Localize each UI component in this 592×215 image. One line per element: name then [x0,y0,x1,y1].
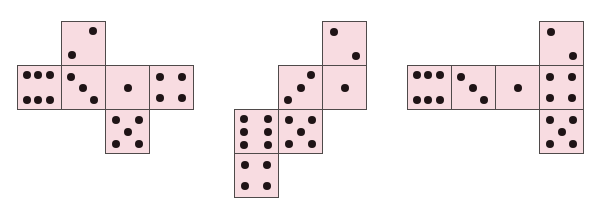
pip [46,71,54,79]
pip [330,28,338,36]
pip [135,140,143,148]
die-face-4 [149,65,194,110]
pip [124,128,132,136]
pip [241,182,249,190]
pip [90,96,98,104]
pip [112,116,120,124]
die-face-4 [234,153,279,198]
pip [112,140,120,148]
pip [23,96,31,104]
pip [178,94,186,102]
pip [79,84,87,92]
pip [263,182,271,190]
pip [352,52,360,60]
pip [308,140,316,148]
die-face-2 [322,21,367,66]
die-face-1 [105,65,150,110]
pip [34,96,42,104]
pip [46,96,54,104]
die-face-5 [278,109,323,154]
pip [546,73,554,81]
pip [124,84,132,92]
die-face-3 [61,65,106,110]
pip [241,161,249,169]
die-face-3 [451,65,496,110]
pip [178,73,186,81]
pip [264,115,272,123]
die-face-5 [105,109,150,154]
pip [546,116,554,124]
die-face-2 [539,21,584,66]
pip [341,84,349,92]
die-face-4 [539,65,584,110]
pip [469,84,477,92]
pip [264,128,272,136]
pip [546,94,554,102]
pip [436,96,444,104]
pip [413,96,421,104]
pip [240,128,248,136]
pip [156,73,164,81]
die-face-1 [495,65,540,110]
pip [68,51,76,59]
pip [89,27,97,35]
pip [457,73,465,81]
pip [285,116,293,124]
pip [307,71,315,79]
pip [297,128,305,136]
pip [547,28,555,36]
pip [156,94,164,102]
die-face-6 [407,65,452,110]
die-face-6 [234,109,279,154]
die-face-2 [61,21,106,66]
die-face-1 [322,65,367,110]
pip [285,140,293,148]
die-face-3 [278,65,323,110]
pip [240,115,248,123]
pip [240,141,248,149]
pip [514,84,522,92]
pip [67,73,75,81]
pip [308,116,316,124]
die-face-5 [539,109,584,154]
pip [424,96,432,104]
pip [23,71,31,79]
pip [480,96,488,104]
pip [135,116,143,124]
pip [424,71,432,79]
pip [297,84,305,92]
pip [558,128,566,136]
pip [569,52,577,60]
die-face-6 [17,65,62,110]
pip [263,161,271,169]
pip [546,140,554,148]
pip [569,140,577,148]
pip [264,141,272,149]
pip [34,71,42,79]
pip [413,71,421,79]
pip [436,71,444,79]
pip [568,94,576,102]
pip [568,73,576,81]
dice-nets-figure [0,0,592,215]
pip [569,116,577,124]
pip [284,96,292,104]
